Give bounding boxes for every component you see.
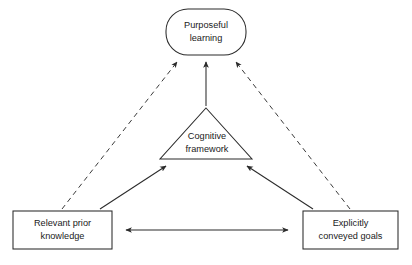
relevant-prior-knowledge-shape bbox=[13, 211, 112, 249]
diagram-canvas: Purposeful learning Cognitive framework … bbox=[0, 0, 412, 265]
node-explicitly-conveyed-goals[interactable]: Explicitly conveyed goals bbox=[303, 211, 398, 249]
node-relevant-prior-knowledge[interactable]: Relevant prior knowledge bbox=[13, 211, 112, 249]
edge-conveyed-goals-to-cognitive-framework bbox=[247, 166, 313, 209]
node-purposeful-learning[interactable]: Purposeful learning bbox=[166, 9, 246, 55]
diagram-svg: Purposeful learning Cognitive framework … bbox=[0, 0, 412, 265]
purposeful-learning-label-line1: Purposeful bbox=[184, 20, 228, 30]
purposeful-learning-label-line2: learning bbox=[190, 33, 223, 43]
node-cognitive-framework[interactable]: Cognitive framework bbox=[160, 108, 252, 159]
purposeful-learning-shape bbox=[166, 9, 246, 55]
cognitive-framework-label-line2: framework bbox=[186, 144, 229, 154]
relevant-prior-knowledge-label-line1: Relevant prior bbox=[34, 218, 91, 228]
edge-conveyed-goals-to-purposeful-learning bbox=[236, 62, 350, 209]
explicitly-conveyed-goals-label-line1: Explicitly bbox=[333, 218, 369, 228]
edge-prior-knowledge-to-cognitive-framework bbox=[100, 166, 166, 209]
cognitive-framework-label-line1: Cognitive bbox=[188, 131, 226, 141]
edge-prior-knowledge-to-purposeful-learning bbox=[62, 62, 177, 209]
relevant-prior-knowledge-label-line2: knowledge bbox=[41, 231, 85, 241]
explicitly-conveyed-goals-label-line2: conveyed goals bbox=[319, 231, 383, 241]
explicitly-conveyed-goals-shape bbox=[303, 211, 398, 249]
